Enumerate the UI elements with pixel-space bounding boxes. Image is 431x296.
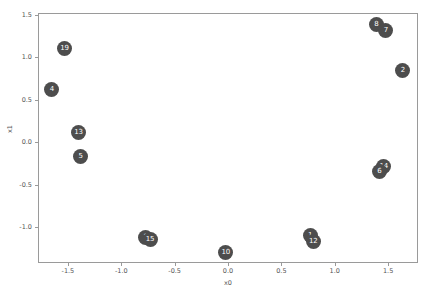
y-tick-mark: [35, 142, 38, 143]
x-tick-mark: [68, 263, 69, 266]
data-points-layer: 87219413514631511210: [39, 14, 417, 262]
data-point-marker: 2: [395, 63, 410, 78]
y-tick-mark: [35, 57, 38, 58]
x-tick-label: 1.0: [315, 267, 355, 275]
x-tick-mark: [121, 263, 122, 266]
data-point-marker: 5: [73, 149, 88, 164]
data-point-marker: 10: [218, 245, 233, 260]
x-tick-label: 0.5: [261, 267, 301, 275]
y-tick-label: 0.5: [0, 96, 32, 104]
x-tick-label: -1.0: [101, 267, 141, 275]
x-tick-mark: [228, 263, 229, 266]
data-point-marker: 12: [306, 234, 321, 249]
x-tick-mark: [281, 263, 282, 266]
y-tick-label: 1.0: [0, 53, 32, 61]
data-point-marker: 19: [57, 41, 72, 56]
x-axis-label: x0: [38, 279, 418, 287]
y-tick-label: -1.0: [0, 223, 32, 231]
data-point-marker: 15: [143, 232, 158, 247]
plot-axes-frame: 87219413514631511210: [38, 13, 418, 263]
y-tick-mark: [35, 100, 38, 101]
y-tick-mark: [35, 15, 38, 16]
x-tick-mark: [175, 263, 176, 266]
y-axis-label: x1: [6, 109, 14, 149]
y-tick-mark: [35, 185, 38, 186]
y-tick-label: -0.5: [0, 181, 32, 189]
x-tick-label: 0.0: [208, 267, 248, 275]
data-point-marker: 13: [71, 125, 86, 140]
y-tick-mark: [35, 227, 38, 228]
data-point-marker: 4: [44, 82, 59, 97]
data-point-marker: 6: [372, 164, 387, 179]
x-tick-mark: [388, 263, 389, 266]
y-tick-label: 0.0: [0, 138, 32, 146]
data-point-marker: 7: [378, 23, 393, 38]
x-tick-mark: [335, 263, 336, 266]
x-tick-label: -0.5: [155, 267, 195, 275]
x-tick-label: 1.5: [368, 267, 408, 275]
y-tick-label: 1.5: [0, 11, 32, 19]
x-tick-label: -1.5: [48, 267, 88, 275]
scatter-plot-figure: 87219413514631511210 -1.5-1.0-0.50.00.51…: [0, 0, 431, 296]
